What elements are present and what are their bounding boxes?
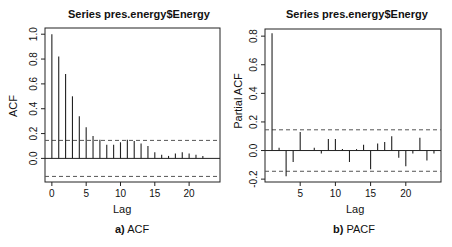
pacf-x-axis-label: Lag <box>346 203 364 215</box>
pacf-caption-prefix: b) <box>333 223 343 235</box>
pacf-y-tick-label: 0.0 <box>248 143 259 157</box>
pacf-y-tick-label: 0.8 <box>248 29 259 43</box>
acf-x-tick-label: 5 <box>83 188 89 199</box>
acf-x-tick-label: 15 <box>149 188 161 199</box>
acf-y-tick-label: 0.0 <box>28 151 39 165</box>
pacf-y-tick-label: 0.6 <box>248 57 259 71</box>
acf-caption: a) ACF <box>115 223 149 235</box>
pacf-x-tick-label: 5 <box>297 188 303 199</box>
pacf-x-tick-label: 10 <box>330 188 342 199</box>
acf-caption-text: ACF <box>125 223 149 235</box>
pacf-caption-text: PACF <box>343 223 375 235</box>
pacf-y-axis-label: Partial ACF <box>232 71 244 131</box>
acf-panel: Series pres.energy$Energy 051015200.00.2… <box>0 0 226 247</box>
acf-x-tick-label: 10 <box>115 188 127 199</box>
pacf-y-tick-label: 0.4 <box>248 86 259 100</box>
acf-y-tick-label: 1.0 <box>28 27 39 41</box>
acf-x-tick-label: 0 <box>49 188 55 199</box>
pacf-plot: 5101520-0.20.00.20.40.60.8 <box>226 0 452 247</box>
pacf-y-tick-label: 0.2 <box>248 115 259 129</box>
pacf-caption: b) PACF <box>333 223 375 235</box>
pacf-x-tick-label: 20 <box>400 188 412 199</box>
pacf-panel: Series pres.energy$Energy 5101520-0.20.0… <box>226 0 452 247</box>
acf-x-tick-label: 20 <box>184 188 196 199</box>
acf-y-tick-label: 0.6 <box>28 77 39 91</box>
acf-y-tick-label: 0.8 <box>28 52 39 66</box>
pacf-y-tick-label: -0.2 <box>248 170 259 188</box>
pacf-plot-frame <box>265 29 441 182</box>
acf-y-tick-label: 0.4 <box>28 101 39 115</box>
acf-caption-prefix: a) <box>115 223 125 235</box>
acf-x-axis-label: Lag <box>113 203 131 215</box>
acf-y-axis-label: ACF <box>7 91 19 121</box>
pacf-x-tick-label: 15 <box>365 188 377 199</box>
acf-y-tick-label: 0.2 <box>28 126 39 140</box>
